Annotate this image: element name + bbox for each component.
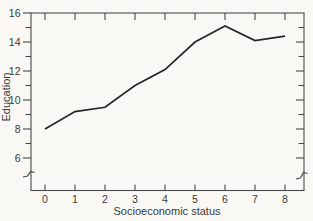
- x-tick-label: 0: [42, 193, 48, 205]
- x-tick-label: 1: [72, 193, 78, 205]
- x-axis-title: Socioeconomic status: [114, 205, 221, 217]
- x-tick-label: 3: [132, 193, 138, 205]
- y-axis-title: Education: [0, 73, 12, 122]
- y-tick-label: 16: [9, 7, 21, 19]
- x-tick-label: 8: [282, 193, 288, 205]
- education-vs-ses-chart: 0123456786810121416 Socioeconomic status…: [0, 0, 313, 221]
- x-tick-label: 5: [192, 193, 198, 205]
- plot-area: 0123456786810121416: [9, 7, 308, 205]
- x-tick-label: 4: [162, 193, 168, 205]
- y-tick-label: 6: [15, 152, 21, 164]
- y-axis-break-left: [23, 172, 35, 178]
- x-tick-label: 6: [222, 193, 228, 205]
- x-tick-label: 7: [252, 193, 258, 205]
- line-chart-figure: 0123456786810121416 Socioeconomic status…: [0, 0, 313, 221]
- y-axis-break-right: [296, 173, 308, 180]
- y-tick-label: 14: [9, 36, 21, 48]
- data-line: [45, 26, 285, 129]
- x-tick-label: 2: [102, 193, 108, 205]
- y-tick-label: 8: [15, 123, 21, 135]
